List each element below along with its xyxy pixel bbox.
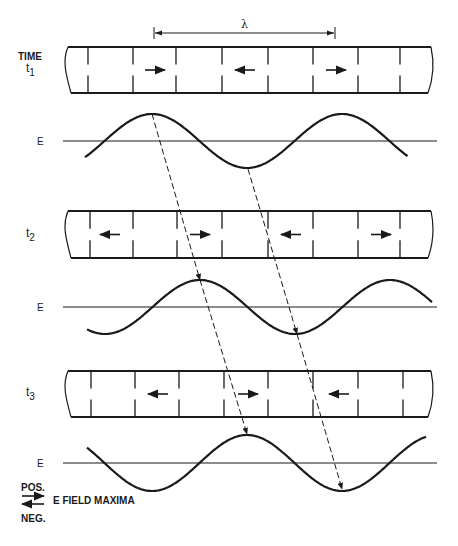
panel-t2: t2E — [26, 211, 437, 334]
waveguide-break-left — [65, 371, 71, 417]
waveguide-break-left — [65, 211, 71, 258]
maxima-track-line-1 — [152, 114, 200, 280]
panel-t3: t3E — [26, 371, 437, 491]
efield-plot-t2: E — [37, 280, 437, 334]
waveguide-t2 — [65, 211, 433, 258]
time-label-t3: t3 — [26, 385, 35, 402]
maxima-track-line-2 — [248, 169, 297, 334]
efield-plot-t3: E — [37, 435, 437, 491]
panel-t1: t1E — [26, 47, 437, 168]
wavelength-label: λ — [241, 18, 248, 31]
time-label-t2: t2 — [26, 226, 35, 243]
efield-axis-label: E — [37, 136, 44, 147]
maxima-track-line-2 — [297, 334, 342, 489]
waveguide-t3 — [65, 371, 433, 417]
legend-neg-label: NEG. — [21, 513, 46, 524]
time-heading: TIME — [18, 51, 42, 62]
waveguide-t1 — [65, 47, 433, 93]
legend: POS. E FIELD MAXIMA NEG. — [21, 482, 135, 524]
maxima-tracking-lines — [152, 114, 342, 489]
legend-caption: E FIELD MAXIMA — [53, 495, 135, 506]
time-label-t1: t1 — [26, 61, 35, 78]
time-panels: t1Et2Et3E — [26, 47, 437, 491]
legend-pos-label: POS. — [21, 482, 45, 493]
waveguide-break-right — [428, 211, 433, 258]
efield-axis-label: E — [37, 458, 44, 469]
efield-axis-label: E — [37, 302, 44, 313]
wavelength-dimension: λ — [154, 18, 335, 39]
waveguide-break-right — [428, 47, 433, 93]
waveguide-field-diagram: λ TIME t1Et2Et3E POS. E FIELD MAXIMA NEG… — [0, 0, 458, 546]
waveguide-break-right — [428, 371, 433, 417]
efield-plot-t1: E — [37, 114, 437, 168]
waveguide-break-left — [65, 47, 71, 93]
